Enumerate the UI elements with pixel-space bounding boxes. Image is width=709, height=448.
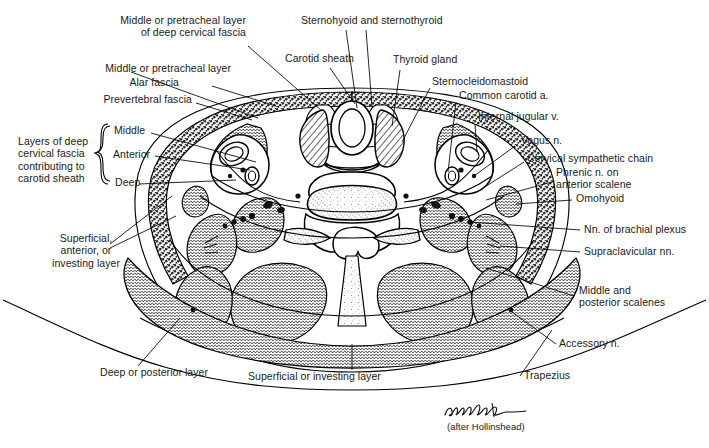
label-middle-and-posterior-scalenes: Middle and posterior scalenes — [579, 284, 665, 309]
label-sternohyoid-and-sternothyroid: Sternohyoid and sternothyroid — [301, 14, 443, 26]
label-common-carotid-artery: Common carotid a. — [459, 89, 549, 101]
layers-group-brace — [95, 124, 108, 184]
figure-canvas: Middle or pretracheal layer of deep cerv… — [0, 0, 709, 448]
label-cervical-sympathetic-chain: Cervical sympathetic chain — [527, 152, 653, 164]
label-alar-fascia: Alar fascia — [0, 76, 179, 88]
label-omohyoid: Omohyoid — [576, 192, 624, 204]
label-layer-deep: Deep — [115, 176, 140, 188]
label-deep-or-posterior-layer: Deep or posterior layer — [100, 366, 208, 378]
artist-signature — [440, 400, 570, 422]
label-middle-pretracheal-layer: Middle or pretracheal layer — [0, 62, 231, 74]
layers-brace — [98, 126, 110, 181]
label-layer-anterior: Anterior — [113, 148, 150, 160]
label-superficial-or-investing-layer: Superficial or investing layer — [248, 370, 381, 382]
label-supraclavicular-nerves: Supraclavicular nn. — [584, 245, 674, 257]
label-thyroid-gland: Thyroid gland — [393, 53, 457, 65]
label-nerves-of-brachial-plexus: Nn. of brachial plexus — [584, 223, 686, 235]
credit-after-hollinshead: (after Hollinshead) — [447, 421, 525, 432]
label-carotid-sheath: Carotid sheath — [285, 52, 354, 64]
label-prevertebral-fascia: Prevertebral fascia — [0, 93, 192, 105]
label-layers-of-deep-cervical-fascia-group: Layers of deep cervical fascia contribut… — [18, 135, 88, 185]
esophagus-and-vertebral-body — [307, 172, 396, 220]
label-middle-pretracheal-deep-cervical-fascia: Middle or pretracheal layer of deep cerv… — [0, 14, 246, 39]
label-superficial-anterior-investing-layer: Superficial, anterior, or investing laye… — [26, 232, 146, 269]
label-trapezius: Trapezius — [524, 369, 570, 381]
label-accessory-nerve: Accessory n. — [559, 337, 620, 349]
label-vagus-nerve: Vagus n. — [521, 134, 562, 146]
label-layer-middle: Middle — [114, 124, 145, 136]
label-phrenic-nerve-anterior-scalene: Phrenic n. on anterior scalene — [556, 166, 632, 191]
label-internal-jugular-vein: Internal jugular v. — [478, 110, 559, 122]
label-sternocleidomastoid: Sternocleidomastoid — [432, 75, 528, 87]
